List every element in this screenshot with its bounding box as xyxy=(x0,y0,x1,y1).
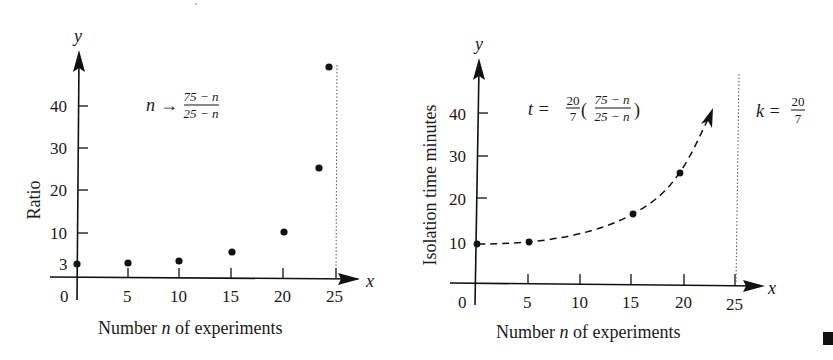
right-equation: t = 20 7 ( 75 − n 25 − n ) xyxy=(528,92,640,124)
k-constant-label: k = 20 7 xyxy=(756,94,805,126)
svg-text:25 − n: 25 − n xyxy=(184,106,219,121)
left-x-label: Number n of experiments xyxy=(98,318,282,338)
right-asymptote xyxy=(736,74,739,284)
data-point xyxy=(315,164,322,171)
svg-text:n: n xyxy=(146,95,155,115)
right-ytick-40: 40 xyxy=(449,105,466,124)
right-xtick-0: 0 xyxy=(458,293,467,312)
right-x-axis-arrow-icon xyxy=(743,280,765,292)
right-xtick-15: 15 xyxy=(622,293,639,312)
data-point xyxy=(124,259,131,266)
figure: x y 0 5 10 15 20 25 3 10 20 30 40 Ratio xyxy=(0,0,833,360)
left-equation: n → 75 − n 25 − n xyxy=(146,89,219,121)
left-y-axis-name: y xyxy=(72,26,82,46)
left-y-label: Ratio xyxy=(24,181,44,220)
right-points xyxy=(474,170,684,248)
data-point xyxy=(228,248,235,255)
left-ytick-10: 10 xyxy=(50,224,67,243)
right-chart: x y 0 5 10 15 20 25 10 20 30 40 Isolatio… xyxy=(420,34,805,342)
svg-text:t =: t = xyxy=(528,99,550,119)
svg-text:75 − n: 75 − n xyxy=(595,92,630,107)
end-mark-square xyxy=(823,332,833,345)
left-x-axis-name: x xyxy=(365,271,374,291)
data-point xyxy=(630,211,637,218)
right-ytick-20: 20 xyxy=(449,190,466,209)
curve-arrow-icon xyxy=(701,108,713,128)
left-x-axis xyxy=(50,277,358,279)
svg-text:75 − n: 75 − n xyxy=(184,89,219,104)
right-x-label: Number n of experiments xyxy=(496,322,680,342)
left-ytick-30: 30 xyxy=(50,139,67,158)
left-xtick-25: 25 xyxy=(326,287,343,306)
right-xtick-10: 10 xyxy=(571,293,588,312)
left-chart: x y 0 5 10 15 20 25 3 10 20 30 40 Ratio xyxy=(24,26,374,338)
left-asymptote xyxy=(336,65,337,276)
right-ytick-30: 30 xyxy=(449,147,466,166)
svg-text:k =: k = xyxy=(756,101,781,121)
data-point xyxy=(474,241,481,248)
right-xtick-5: 5 xyxy=(523,293,532,312)
svg-text:25 − n: 25 − n xyxy=(595,109,630,124)
data-point xyxy=(677,170,684,177)
svg-text:→: → xyxy=(160,95,178,115)
svg-text:7: 7 xyxy=(795,111,802,126)
right-ytick-10: 10 xyxy=(449,234,466,253)
svg-text:20: 20 xyxy=(567,93,580,108)
right-y-axis xyxy=(475,68,479,305)
svg-text:): ) xyxy=(634,100,640,121)
left-ytick-40: 40 xyxy=(50,97,67,116)
left-xtick-15: 15 xyxy=(222,287,239,306)
left-xtick-20: 20 xyxy=(274,287,291,306)
svg-text:(: ( xyxy=(581,100,587,121)
right-x-axis-name: x xyxy=(767,278,776,298)
scan-speck xyxy=(195,3,197,5)
left-ytick-3: 3 xyxy=(59,255,68,274)
data-point xyxy=(73,260,80,267)
right-x-axis xyxy=(450,283,760,286)
left-ytick-20: 20 xyxy=(50,181,67,200)
data-point xyxy=(325,63,332,70)
data-point xyxy=(175,257,182,264)
svg-text:7: 7 xyxy=(570,109,577,124)
right-xtick-20: 20 xyxy=(675,293,692,312)
left-xtick-5: 5 xyxy=(123,287,132,306)
right-y-label: Isolation time minutes xyxy=(420,105,440,266)
right-y-axis-name: y xyxy=(473,34,483,54)
svg-text:20: 20 xyxy=(792,94,805,109)
left-xtick-0: 0 xyxy=(60,287,69,306)
data-point xyxy=(280,228,287,235)
left-x-axis-arrow-icon xyxy=(338,273,360,285)
right-xtick-25: 25 xyxy=(726,295,743,314)
left-xtick-10: 10 xyxy=(170,287,187,306)
dashed-curve xyxy=(478,115,710,244)
data-point xyxy=(526,239,533,246)
